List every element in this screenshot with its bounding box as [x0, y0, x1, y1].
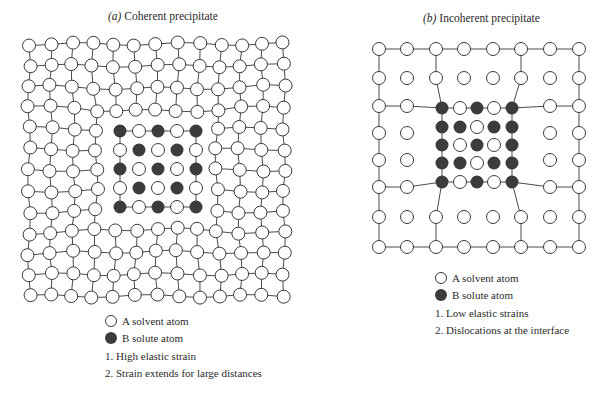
solvent-atom [573, 127, 586, 140]
solvent-atom [544, 72, 557, 85]
solute-atom [471, 139, 484, 152]
solvent-atom [488, 176, 501, 189]
solute-atom [488, 157, 501, 170]
solvent-atom [193, 269, 206, 282]
solute-atom [454, 157, 467, 170]
solvent-atom [544, 181, 557, 194]
legend-solvent-label: A solvent atom [122, 313, 189, 330]
solvent-atom [401, 181, 414, 194]
solvent-atom [22, 269, 35, 282]
solvent-atom [573, 154, 586, 167]
solvent-atom [487, 43, 500, 56]
solvent-atom [458, 43, 471, 56]
solvent-atom [573, 241, 586, 254]
legend-solute-label: B solute atom [122, 330, 183, 347]
solvent-atom [401, 154, 414, 167]
solvent-atom [193, 291, 206, 304]
solvent-atom [458, 241, 471, 254]
solvent-atom [515, 43, 528, 56]
solvent-atom-icon [105, 315, 117, 327]
solute-atom [506, 176, 519, 189]
solvent-atom [515, 241, 528, 254]
solvent-atom [87, 269, 100, 282]
legend-solvent: A solvent atom [105, 313, 262, 330]
solvent-atom [401, 72, 414, 85]
incoherent-lattice-diagram [0, 0, 605, 270]
solvent-atom [213, 290, 226, 303]
solvent-atom-icon [435, 272, 447, 284]
solvent-atom [544, 241, 557, 254]
solvent-atom [430, 43, 443, 56]
panel-b-legend: A solvent atom B solute atom 1. Low elas… [435, 270, 569, 339]
panel-a-note-1: 1. High elastic strain [105, 348, 262, 365]
solvent-atom [487, 241, 500, 254]
solute-atom [454, 121, 467, 134]
solute-atom [506, 139, 519, 152]
solvent-atom [515, 211, 528, 224]
solvent-atom [430, 211, 443, 224]
solvent-atom [215, 269, 228, 282]
panel-a-legend: A solvent atom B solute atom 1. High ela… [105, 313, 262, 382]
solute-atom [436, 121, 449, 134]
solute-atom-icon [435, 289, 447, 301]
solvent-atom [234, 288, 247, 301]
solute-atom [436, 139, 449, 152]
solvent-atom [85, 291, 98, 304]
solvent-atom [373, 127, 386, 140]
legend-solvent-label: A solvent atom [452, 270, 519, 287]
legend-solvent: A solvent atom [435, 270, 569, 287]
solute-atom [471, 102, 484, 115]
solvent-atom [373, 100, 386, 113]
solvent-atom [401, 127, 414, 140]
solvent-atom [471, 121, 484, 134]
solvent-atom [373, 211, 386, 224]
solvent-atom [373, 72, 386, 85]
solvent-atom [276, 268, 289, 281]
solvent-atom [573, 211, 586, 224]
solvent-atom [401, 241, 414, 254]
solvent-atom [544, 100, 557, 113]
solvent-atom [401, 211, 414, 224]
solute-atom-icon [105, 332, 117, 344]
solvent-atom [373, 181, 386, 194]
solvent-atom [487, 72, 500, 85]
solute-atom [506, 102, 519, 115]
solvent-atom [573, 100, 586, 113]
solvent-atom [430, 241, 443, 254]
solvent-atom [458, 211, 471, 224]
solvent-atom [107, 269, 120, 282]
solute-atom [471, 176, 484, 189]
solvent-atom [255, 288, 268, 301]
solvent-atom [573, 72, 586, 85]
solvent-atom [544, 43, 557, 56]
solvent-atom [277, 290, 290, 303]
legend-solute: B solute atom [435, 287, 569, 304]
legend-solute: B solute atom [105, 330, 262, 347]
solvent-atom [24, 289, 37, 302]
solute-atom [436, 176, 449, 189]
solvent-atom [544, 211, 557, 224]
solvent-atom [173, 290, 186, 303]
solvent-atom [515, 72, 528, 85]
solvent-atom [573, 43, 586, 56]
solvent-atom [373, 43, 386, 56]
solvent-atom [106, 290, 119, 303]
solvent-atom [454, 102, 467, 115]
legend-solute-label: B solute atom [452, 287, 513, 304]
panel-b-note-2: 2. Dislocations at the interface [435, 322, 569, 339]
solvent-atom [544, 154, 557, 167]
panel-a-note-2: 2. Strain extends for large distances [105, 365, 262, 382]
solute-atom [506, 121, 519, 134]
solvent-atom [458, 72, 471, 85]
solvent-atom [454, 139, 467, 152]
solvent-atom [45, 288, 58, 301]
solvent-atom [487, 211, 500, 224]
panel-b-note-1: 1. Low elastic strains [435, 305, 569, 322]
solute-atom [488, 121, 501, 134]
solvent-atom [128, 288, 141, 301]
solvent-atom [430, 72, 443, 85]
solvent-atom [573, 181, 586, 194]
solvent-atom [488, 139, 501, 152]
solvent-atom [373, 241, 386, 254]
solute-atom [436, 157, 449, 170]
